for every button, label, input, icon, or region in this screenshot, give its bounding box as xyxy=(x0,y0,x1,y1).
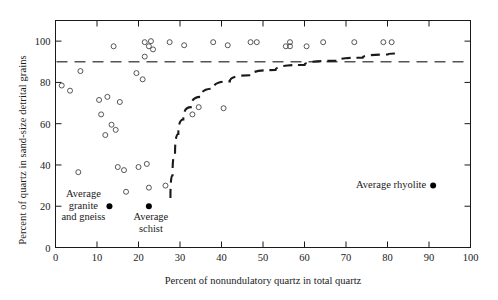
data-point xyxy=(59,83,64,88)
data-point xyxy=(113,127,118,132)
average-schist-label: Average schist xyxy=(133,211,168,234)
data-point xyxy=(111,44,116,49)
data-point xyxy=(304,44,309,49)
data-point xyxy=(248,40,253,45)
granite-label-line-2: granite xyxy=(61,200,105,212)
granite-label-line-1: Average xyxy=(61,188,105,200)
x-axis-title: Percent of nonundulatory quartz in total… xyxy=(55,275,471,286)
data-point xyxy=(142,40,147,45)
x-tick-label-10: 10 xyxy=(92,252,103,263)
data-point xyxy=(140,77,145,82)
y-axis-title: Percent of quartz in sand-size detrital … xyxy=(12,0,34,300)
reference-marker xyxy=(106,203,112,209)
x-tick-label-50: 50 xyxy=(258,252,269,263)
y-tick-label-0: 0 xyxy=(45,242,50,253)
data-point xyxy=(167,40,172,45)
y-tick-label-60: 60 xyxy=(40,118,51,129)
x-tick-label-0: 0 xyxy=(53,252,58,263)
data-point xyxy=(134,71,139,76)
scatter-chart-figure: Percent of quartz in sand-size detrital … xyxy=(0,0,498,300)
y-tick-label-40: 40 xyxy=(40,159,51,170)
data-point xyxy=(190,112,195,117)
data-point xyxy=(211,40,216,45)
data-point xyxy=(115,165,120,170)
data-point xyxy=(144,161,149,166)
data-point xyxy=(121,168,126,173)
data-point xyxy=(78,69,83,74)
axis-ticks xyxy=(56,21,471,248)
x-tick-label-80: 80 xyxy=(382,252,393,263)
data-point xyxy=(68,88,73,93)
data-point xyxy=(225,43,230,48)
data-point xyxy=(254,40,259,45)
data-point xyxy=(151,47,156,52)
data-point xyxy=(352,40,357,45)
data-point xyxy=(196,105,201,110)
y-tick-label-80: 80 xyxy=(40,77,51,88)
schist-label-line-1: Average xyxy=(133,211,168,223)
data-point xyxy=(109,122,114,127)
reference-marker xyxy=(146,203,152,209)
x-tick-label-70: 70 xyxy=(341,252,352,263)
data-point xyxy=(321,40,326,45)
boundary-curve xyxy=(170,54,395,198)
data-point xyxy=(142,54,147,59)
data-point xyxy=(389,40,394,45)
data-point xyxy=(124,189,129,194)
y-tick-label-100: 100 xyxy=(35,36,51,47)
reference-marker xyxy=(430,183,436,189)
data-point xyxy=(146,185,151,190)
data-point xyxy=(136,165,141,170)
x-tick-label-90: 90 xyxy=(424,252,435,263)
data-point xyxy=(103,133,108,138)
plot-frame xyxy=(56,21,471,248)
granite-label-line-3: and gneiss xyxy=(61,211,105,223)
data-point xyxy=(148,39,153,44)
average-granite-and-gneiss-label: Average granite and gneiss xyxy=(61,188,105,223)
data-point xyxy=(381,40,386,45)
y-tick-label-20: 20 xyxy=(40,201,51,212)
data-point xyxy=(97,97,102,102)
data-point xyxy=(221,106,226,111)
data-point xyxy=(99,112,104,117)
x-tick-label-30: 30 xyxy=(175,252,186,263)
data-point xyxy=(163,183,168,188)
data-point xyxy=(105,94,110,99)
data-point xyxy=(117,100,122,105)
x-tick-label-20: 20 xyxy=(133,252,144,263)
data-point xyxy=(76,170,81,175)
schist-label-line-2: schist xyxy=(133,223,168,235)
x-tick-label-40: 40 xyxy=(216,252,227,263)
average-rhyolite-label: Average rhyolite xyxy=(356,179,426,191)
x-tick-label-100: 100 xyxy=(463,252,479,263)
data-point xyxy=(182,43,187,48)
x-tick-label-60: 60 xyxy=(299,252,310,263)
